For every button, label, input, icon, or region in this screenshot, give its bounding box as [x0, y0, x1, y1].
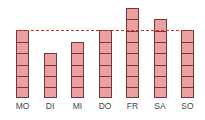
bar-segment-divider [182, 65, 193, 66]
bar-segment-divider [72, 65, 83, 66]
bar-segment-divider [155, 42, 166, 43]
bar-segment-divider [17, 42, 28, 43]
bar-segment-divider [155, 76, 166, 77]
bar-segment-divider [182, 76, 193, 77]
bar-segment-divider [127, 65, 138, 66]
bar-segment-divider [127, 19, 138, 20]
bar-segment-divider [100, 53, 111, 54]
x-tick-label: DI [38, 101, 62, 111]
reference-line [16, 30, 194, 31]
bar-fr [126, 8, 139, 98]
bar-segment-divider [72, 76, 83, 77]
bar-segment-divider [182, 87, 193, 88]
bar-do [99, 30, 112, 98]
bar-segment-divider [72, 87, 83, 88]
bar-chart: MODIMIDOFRSASO [0, 0, 205, 120]
x-tick-label: MI [66, 101, 90, 111]
bar-segment-divider [127, 76, 138, 77]
bar-segment-divider [17, 53, 28, 54]
bar-segment-divider [155, 65, 166, 66]
bar-mi [71, 42, 84, 99]
bar-segment-divider [100, 65, 111, 66]
bar-segment-divider [72, 53, 83, 54]
bar-segment-divider [182, 53, 193, 54]
bar-segment-divider [100, 87, 111, 88]
bar-segment-divider [45, 76, 56, 77]
bar-segment-divider [127, 42, 138, 43]
bar-segment-divider [127, 87, 138, 88]
bar-segment-divider [127, 53, 138, 54]
x-tick-label: FR [121, 101, 145, 111]
bar-segment-divider [45, 87, 56, 88]
bar-segment-divider [17, 76, 28, 77]
x-tick-label: DO [93, 101, 117, 111]
bar-segment-divider [155, 87, 166, 88]
x-tick-label: SA [148, 101, 172, 111]
bar-di [44, 53, 57, 98]
x-tick-label: SO [176, 101, 200, 111]
bar-segment-divider [182, 42, 193, 43]
x-tick-label: MO [11, 101, 35, 111]
bar-mo [16, 30, 29, 98]
bar-so [181, 30, 194, 98]
bar-segment-divider [155, 53, 166, 54]
bar-segment-divider [17, 87, 28, 88]
bar-segment-divider [100, 76, 111, 77]
bar-segment-divider [100, 42, 111, 43]
bar-segment-divider [17, 65, 28, 66]
bar-segment-divider [45, 65, 56, 66]
